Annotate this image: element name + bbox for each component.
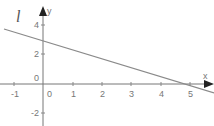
x-tick-label: -1 [11, 89, 19, 99]
y-axis-label: y [47, 6, 52, 16]
y-axis-arrow-icon [39, 6, 47, 16]
y-tick-label: 4 [34, 20, 39, 30]
y-tick-label: 2 [34, 49, 39, 59]
y-origin-label: 0 [34, 73, 39, 83]
x-tick-label: 2 [100, 89, 105, 99]
coordinate-plane: -1 0 1 2 3 4 5 4 2 0 -2 y x l [0, 0, 214, 126]
x-tick-label: 4 [159, 89, 164, 99]
x-origin-label: 0 [47, 89, 52, 99]
x-tick-label: 5 [188, 89, 193, 99]
y-tick-label: -2 [31, 108, 39, 118]
x-tick-label: 1 [71, 89, 76, 99]
x-tick-label: 3 [129, 89, 134, 99]
x-axis-arrow-icon [204, 80, 214, 88]
x-axis-label: x [203, 71, 208, 81]
line-l-label: l [16, 8, 21, 25]
line-l [4, 29, 214, 93]
